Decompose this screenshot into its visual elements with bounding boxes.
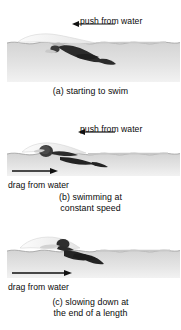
panel-a-scene [0,30,181,82]
panel-a-starting-to-swim: push from water [0,0,181,106]
panel-c-caption-line1: (c) slowing down at [0,297,181,308]
panel-c-drag-label-group: drag from water [8,276,69,294]
swimmer-force-diagram: push from water [0,0,181,330]
panel-a-water-and-swimmer [0,30,181,82]
wake-trail [88,153,168,154]
panel-b-drag-label-group: drag from water [8,174,69,192]
panel-b-caption-line2: constant speed [0,203,181,214]
panel-b-caption-line1: (b) swimming at [0,192,181,203]
water-body [7,42,180,82]
drag-from-water-label: drag from water [8,282,69,292]
splash-foam [18,34,96,44]
panel-c-caption-line2: the end of a length [0,308,181,319]
drag-from-water-label: drag from water [8,180,69,190]
panel-c-slowing-down: drag from water (c) slowing down at the … [0,220,181,330]
wake-trail [96,250,170,251]
panel-a-caption: (a) starting to swim [0,86,181,97]
wake-trail [96,42,166,43]
push-from-water-arrow-left [72,19,116,29]
panel-b-constant-speed: push from water [0,108,181,218]
push-from-water-arrow-left [78,127,116,137]
